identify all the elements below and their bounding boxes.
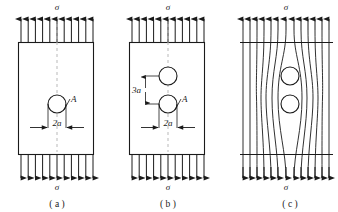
panel-b-dimension-3a (145, 76, 159, 104)
panel-a-dimension-label: 2a (53, 118, 63, 128)
panel-b-dimension-horizontal-label: 2a (164, 118, 174, 128)
panel-a-hole (48, 95, 66, 113)
panel-c-bottom-arrows (243, 167, 329, 178)
panel-b-hole-label: A (181, 94, 188, 104)
panel-b: σ A 3a (130, 2, 205, 210)
panel-c-sigma-bottom: σ (284, 182, 289, 192)
panel-c-sigma-top: σ (284, 2, 289, 12)
panel-c: σ (240, 2, 333, 210)
panel-a-caption: ( a ) (49, 199, 64, 210)
figure-stress-concentration-plate: σ A (0, 0, 338, 212)
panel-b-sigma-top: σ (166, 2, 171, 12)
panel-c-caption: ( c ) (282, 199, 297, 210)
panel-a-sigma-bottom: σ (55, 182, 60, 192)
panel-b-caption: ( b ) (160, 199, 176, 210)
panel-a-bottom-arrows (21, 155, 93, 178)
panel-a-sigma-top: σ (55, 2, 60, 12)
panel-c-hole-lower (281, 95, 299, 113)
panel-c-top-arrows (243, 19, 329, 30)
panel-a: σ A (19, 2, 94, 210)
panel-c-hole-upper (281, 67, 299, 85)
panel-a-hole-label: A (70, 94, 77, 104)
panel-b-hole-lower (159, 95, 177, 113)
panel-b-sigma-bottom: σ (166, 182, 171, 192)
panel-b-hole-upper (159, 67, 177, 85)
panel-b-bottom-arrows (132, 155, 204, 178)
panel-b-dimension-vertical-label: 3a (131, 85, 142, 95)
